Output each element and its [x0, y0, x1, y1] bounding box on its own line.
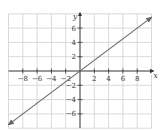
y-tick-label: −4	[66, 96, 77, 104]
x-axis-label: x	[154, 71, 159, 80]
x-tick-label: −4	[46, 75, 57, 83]
y-axis-label: y	[72, 12, 78, 21]
x-tick-label: −6	[32, 75, 43, 83]
x-tick-label: 6	[121, 75, 126, 83]
coordinate-plane-chart: −8−6−4−22468−6−4−2246 x y	[0, 0, 163, 130]
y-tick-label: −6	[66, 110, 77, 118]
y-tick-label: 6	[72, 25, 77, 33]
x-tick-label: −8	[18, 75, 28, 83]
x-tick-label: 2	[92, 75, 96, 83]
x-tick-label: 8	[135, 75, 139, 83]
y-tick-label: −2	[66, 82, 76, 90]
y-tick-label: 4	[72, 39, 77, 47]
x-tick-label: 4	[106, 75, 111, 83]
y-tick-label: 2	[72, 53, 76, 61]
